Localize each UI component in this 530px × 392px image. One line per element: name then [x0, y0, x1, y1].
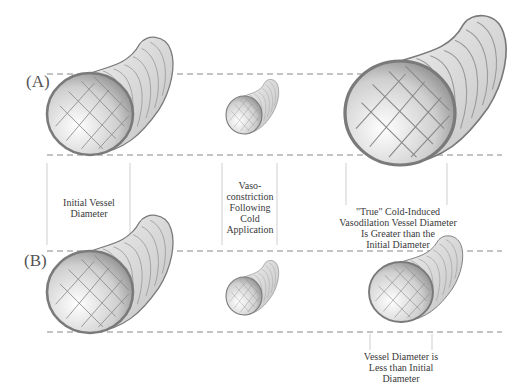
caption-line: Vasodilation Vessel Diameter: [330, 217, 466, 228]
caption-vasoconstriction: Vaso- constriction Following Cold Applic…: [222, 180, 278, 235]
vessel-b-initial: [47, 215, 173, 333]
caption-line: Cold: [222, 213, 278, 224]
caption-line: Following: [222, 202, 278, 213]
caption-line: Initial Vessel: [48, 197, 130, 208]
caption-true-civd: "True" Cold-Induced Vasodilation Vessel …: [330, 206, 466, 250]
caption-line: Less than Initial: [356, 362, 446, 373]
caption-line: Vaso-: [222, 180, 278, 191]
caption-line: Diameter: [356, 373, 446, 384]
caption-line: constriction: [222, 191, 278, 202]
caption-line: Application: [222, 224, 278, 235]
vessel-a-initial: [47, 37, 173, 155]
caption-line: "True" Cold-Induced: [330, 206, 466, 217]
panel-label-a: (A): [26, 72, 50, 92]
caption-line: Initial Diameter: [330, 239, 466, 250]
caption-line: Diameter: [48, 208, 130, 219]
vessel-b-constricted: [226, 260, 279, 315]
caption-less-than-initial: Vessel Diameter is Less than Initial Dia…: [356, 351, 446, 384]
caption-line: Is Greater than the: [330, 228, 466, 239]
panel-label-b: (B): [24, 251, 47, 271]
caption-initial-diameter: Initial Vessel Diameter: [48, 197, 130, 219]
vessel-a-dilated: [345, 16, 506, 165]
vessel-a-constricted: [226, 79, 279, 134]
caption-line: Vessel Diameter is: [356, 351, 446, 362]
